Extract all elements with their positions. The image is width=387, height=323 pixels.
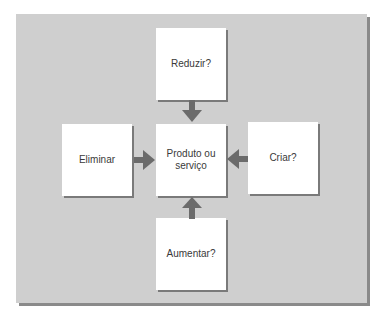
box-eliminar-label: Eliminar — [79, 154, 115, 166]
arrow-up-icon — [180, 197, 204, 219]
center-label-line2: serviço — [175, 160, 207, 172]
center-label-line1: Produto ou — [167, 148, 216, 160]
box-aumentar: Aumentar? — [156, 218, 226, 290]
box-reduzir: Reduzir? — [156, 28, 226, 100]
arrow-down-icon — [180, 100, 204, 123]
box-produto-servico: Produto ou serviço — [156, 124, 226, 196]
box-criar: Criar? — [248, 122, 318, 194]
box-eliminar: Eliminar — [62, 124, 132, 196]
box-reduzir-label: Reduzir? — [171, 58, 211, 70]
arrow-right-icon — [134, 149, 156, 171]
box-criar-label: Criar? — [269, 152, 296, 164]
arrow-left-icon — [227, 148, 248, 170]
box-aumentar-label: Aumentar? — [167, 248, 216, 260]
